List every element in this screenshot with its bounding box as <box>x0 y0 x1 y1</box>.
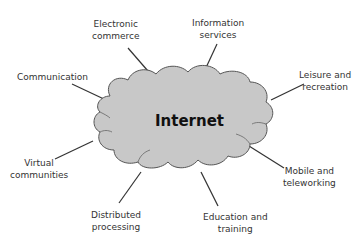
node-leisure-recreation: Leisure and recreation <box>299 69 351 93</box>
internet-label: Internet <box>155 112 224 130</box>
connector-education-training <box>201 172 218 206</box>
node-label: communities <box>10 169 68 181</box>
node-label: Mobile and <box>283 165 336 177</box>
connector-communication <box>72 84 106 100</box>
node-mobile-teleworking: Mobile and teleworking <box>283 165 336 189</box>
node-label: commerce <box>92 30 140 42</box>
node-label: Electronic <box>92 18 140 30</box>
node-label: Leisure and <box>299 69 351 81</box>
node-label: processing <box>91 221 141 233</box>
node-communication: Communication <box>17 71 88 83</box>
node-label: Distributed <box>91 209 141 221</box>
node-label: services <box>192 29 244 41</box>
node-label: Virtual <box>10 157 68 169</box>
node-label: Education and <box>203 211 268 223</box>
node-label: Communication <box>17 71 88 83</box>
node-label: teleworking <box>283 177 336 189</box>
node-label: Information <box>192 17 244 29</box>
connector-mobile-teleworking <box>249 146 284 168</box>
node-electronic-commerce: Electronic commerce <box>92 18 140 42</box>
node-education-training: Education and training <box>203 211 268 235</box>
node-information-services: Information services <box>192 17 244 41</box>
node-distributed-processing: Distributed processing <box>91 209 141 233</box>
node-label: recreation <box>299 81 351 93</box>
node-virtual-communities: Virtual communities <box>10 157 68 181</box>
connector-distributed-processing <box>119 172 141 203</box>
node-label: training <box>203 223 268 235</box>
